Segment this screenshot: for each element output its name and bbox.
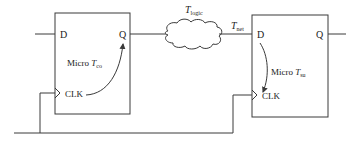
left-micro-sub: co: [96, 63, 102, 69]
left-clock-triangle-icon: [55, 88, 60, 98]
left-q-label: Q: [119, 29, 127, 40]
t-net-label: Tnet: [231, 20, 244, 32]
right-micro-prefix: Micro: [271, 67, 295, 77]
tco-arrow: [86, 44, 123, 95]
t-logic-label: Tlogic: [185, 4, 203, 16]
clock-right-branch: [233, 95, 252, 133]
left-d-label: D: [60, 29, 67, 40]
t-net-sub: net: [237, 26, 245, 32]
logic-cloud: Tlogic: [165, 4, 221, 49]
flipflop-left: D Q Micro Tco CLK: [35, 13, 130, 114]
right-clock-triangle-icon: [252, 90, 257, 100]
left-micro-prefix: Micro: [67, 58, 91, 68]
left-micro-tco-label: Micro Tco: [67, 58, 102, 69]
timing-diagram: D Q Micro Tco CLK Tlogic Tnet D Q Micro …: [0, 0, 357, 146]
clock-net: [14, 93, 252, 133]
right-q-label: Q: [316, 29, 324, 40]
clock-left-branch: [40, 93, 55, 133]
tsu-arrow: [260, 43, 267, 92]
flipflop-right: D Q Micro Tsu CLK: [252, 15, 346, 117]
right-d-label: D: [257, 29, 264, 40]
left-clk-label: CLK: [65, 89, 84, 99]
logic-cloud-shape: [165, 19, 221, 49]
right-clk-label: CLK: [262, 91, 281, 101]
t-logic-sub: logic: [191, 10, 203, 16]
right-micro-sub: su: [300, 72, 305, 78]
right-micro-tsu-label: Micro Tsu: [271, 67, 306, 78]
